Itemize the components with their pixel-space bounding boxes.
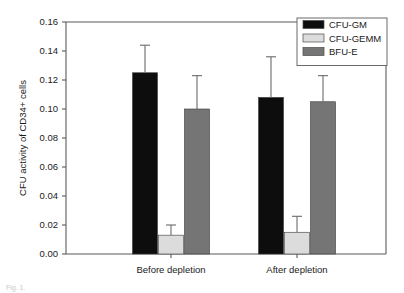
y-tick-label: 0.04 (40, 190, 59, 201)
legend-label: CFU-GM (329, 19, 367, 30)
y-axis-title: CFU activity of CD34+ cells (17, 80, 28, 196)
legend-label: CFU-GEMM (329, 33, 381, 44)
bar (259, 97, 284, 254)
bar (133, 73, 158, 254)
y-tick-label: 0.16 (40, 16, 59, 27)
x-category-label: Before depletion (136, 264, 205, 275)
legend-swatch (303, 48, 324, 56)
bar-chart: 0.000.020.040.060.080.100.120.140.16 Bef… (0, 0, 404, 293)
figure-container: 0.000.020.040.060.080.100.120.140.16 Bef… (0, 0, 404, 293)
y-axis-ticks: 0.000.020.040.060.080.100.120.140.16 (40, 16, 67, 259)
y-tick-label: 0.00 (40, 248, 59, 259)
figure-caption: Fig. 1. (6, 284, 126, 292)
y-tick-label: 0.08 (40, 132, 59, 143)
bar-group-layer (133, 73, 336, 254)
y-tick-label: 0.10 (40, 103, 59, 114)
bar (185, 109, 210, 254)
chart-legend: CFU-GMCFU-GEMMBFU-E (297, 18, 387, 66)
legend-label: BFU-E (329, 46, 358, 57)
y-tick-label: 0.06 (40, 161, 59, 172)
legend-swatch (303, 21, 324, 29)
y-tick-label: 0.14 (40, 45, 59, 56)
y-tick-label: 0.02 (40, 219, 59, 230)
legend-swatch (303, 34, 324, 42)
category-labels: Before depletionAfter depletion (136, 254, 327, 275)
error-bar-layer (140, 45, 328, 235)
bar (311, 102, 336, 254)
x-category-label: After depletion (266, 264, 327, 275)
bar (159, 235, 184, 254)
bar (285, 232, 310, 254)
y-tick-label: 0.12 (40, 74, 59, 85)
